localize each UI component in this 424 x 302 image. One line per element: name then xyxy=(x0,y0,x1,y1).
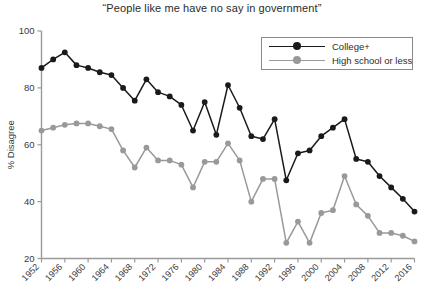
data-point xyxy=(74,62,80,68)
x-tick-label: 1988 xyxy=(229,262,250,283)
x-tick-label: 2012 xyxy=(369,262,390,283)
data-point xyxy=(39,65,45,71)
x-tick-label: 1976 xyxy=(160,262,181,283)
data-point xyxy=(330,207,336,213)
data-point xyxy=(155,157,161,163)
x-tick-label: 2016 xyxy=(393,262,414,283)
data-point xyxy=(97,69,103,75)
data-point xyxy=(225,140,231,146)
y-tick-label: 60 xyxy=(24,139,35,150)
y-axis-title: % Disagree xyxy=(5,120,16,169)
data-point xyxy=(412,239,418,245)
x-tick-label: 1952 xyxy=(20,262,41,283)
x-tick-label: 2008 xyxy=(346,262,367,283)
data-point xyxy=(388,185,394,191)
x-tick-label: 1968 xyxy=(113,262,134,283)
legend-marker-icon xyxy=(293,56,301,64)
data-point xyxy=(144,76,150,82)
x-tick-label: 1960 xyxy=(66,262,87,283)
data-point xyxy=(74,121,80,127)
data-point xyxy=(307,148,313,154)
x-tick-label: 1992 xyxy=(253,262,274,283)
data-point xyxy=(342,116,348,122)
data-point xyxy=(120,85,126,91)
data-point xyxy=(132,98,138,104)
data-point xyxy=(202,159,208,165)
data-point xyxy=(190,185,196,191)
x-tick-label: 1984 xyxy=(206,262,227,283)
data-point xyxy=(260,136,266,142)
data-point xyxy=(62,49,68,55)
data-point xyxy=(132,165,138,171)
data-point xyxy=(318,133,324,139)
legend-marker-icon xyxy=(293,42,301,50)
data-point xyxy=(85,65,91,71)
data-point xyxy=(97,123,103,129)
y-tick-labels: 20406080100 xyxy=(19,25,35,264)
data-point xyxy=(307,240,313,246)
data-point xyxy=(178,102,184,108)
data-point xyxy=(225,82,231,88)
data-point xyxy=(353,156,359,162)
data-point xyxy=(62,122,68,128)
data-point xyxy=(248,199,254,205)
data-point xyxy=(272,176,278,182)
data-point xyxy=(213,132,219,138)
data-point xyxy=(377,230,383,236)
data-point xyxy=(342,173,348,179)
data-point xyxy=(365,159,371,165)
data-point xyxy=(388,230,394,236)
series-line-0 xyxy=(42,52,415,211)
x-tick-labels: 1952195619601964196819721976198019841988… xyxy=(20,262,414,283)
y-axis-title: % Disagree xyxy=(5,120,16,169)
x-tick-label: 1964 xyxy=(90,262,111,283)
y-tick-label: 100 xyxy=(19,25,35,36)
data-point xyxy=(109,72,115,78)
data-point xyxy=(365,213,371,219)
data-point xyxy=(167,94,173,100)
data-point xyxy=(377,173,383,179)
data-point xyxy=(295,219,301,225)
data-point xyxy=(400,233,406,239)
legend-item-1: High school or less xyxy=(262,53,414,69)
series-group xyxy=(39,49,418,245)
data-point xyxy=(295,150,301,156)
data-point xyxy=(412,209,418,215)
data-point xyxy=(155,89,161,95)
data-point xyxy=(190,128,196,134)
data-point xyxy=(85,121,91,127)
data-point xyxy=(178,162,184,168)
data-point xyxy=(272,116,278,122)
data-point xyxy=(50,125,56,131)
data-point xyxy=(144,145,150,151)
legend-label: High school or less xyxy=(332,53,412,69)
x-tick-label: 1972 xyxy=(136,262,157,283)
data-point xyxy=(248,133,254,139)
data-point xyxy=(39,128,45,134)
data-point xyxy=(400,196,406,202)
y-tick-label: 40 xyxy=(24,196,35,207)
data-point xyxy=(237,105,243,111)
data-point xyxy=(237,157,243,163)
data-point xyxy=(330,125,336,131)
x-tick-label: 1980 xyxy=(183,262,204,283)
data-point xyxy=(109,126,115,132)
data-point xyxy=(202,99,208,105)
data-point xyxy=(120,148,126,154)
x-tick-label: 1996 xyxy=(276,262,297,283)
data-point xyxy=(213,159,219,165)
data-point xyxy=(50,57,56,63)
chart-container: “People like me have no say in governmen… xyxy=(0,0,424,302)
y-tick-label: 80 xyxy=(24,82,35,93)
x-tick-label: 2000 xyxy=(299,262,320,283)
data-point xyxy=(167,157,173,163)
x-tick-label: 2004 xyxy=(323,262,344,283)
data-point xyxy=(283,177,289,183)
data-point xyxy=(353,202,359,208)
data-point xyxy=(260,176,266,182)
chart-legend: College+ High school or less xyxy=(261,37,413,70)
data-point xyxy=(283,240,289,246)
x-tick-label: 1956 xyxy=(43,262,64,283)
data-point xyxy=(318,210,324,216)
